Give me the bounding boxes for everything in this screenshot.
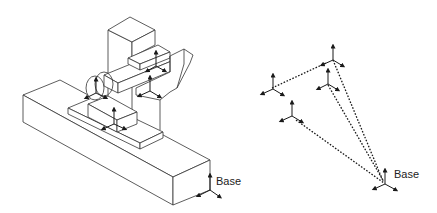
right-base-frame-icon bbox=[374, 170, 396, 190]
machine-base-label: Base bbox=[216, 175, 241, 187]
frame-left-icon bbox=[262, 75, 283, 95]
graph-base-label: Base bbox=[394, 168, 419, 180]
machine-drawing bbox=[23, 17, 210, 205]
frame-upper-right-icon bbox=[318, 70, 338, 90]
frame-lower-left-icon bbox=[281, 102, 302, 122]
